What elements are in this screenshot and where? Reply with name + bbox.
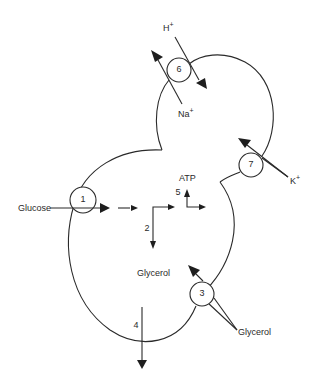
- arrowhead-icon: [151, 50, 163, 62]
- pathway-2-arrows: 2: [144, 204, 175, 249]
- carrier-7: 7: [238, 138, 288, 177]
- arrowhead-icon: [150, 241, 156, 249]
- pathway-5-label: 5: [175, 187, 180, 197]
- arrowhead-icon: [199, 204, 206, 210]
- mother-cell-membrane: [69, 150, 235, 342]
- glycerol-inside-label: Glycerol: [137, 268, 170, 278]
- pathway-2-label: 2: [144, 223, 149, 233]
- na-ion-label: Na+: [178, 107, 194, 119]
- arrowhead-icon: [100, 203, 110, 213]
- glucose-label: Glucose: [18, 203, 51, 213]
- carrier-1-label: 1: [80, 194, 85, 204]
- pathway-4-arrow: 4: [133, 307, 147, 369]
- cell-membrane: [69, 55, 274, 342]
- carrier-3-label: 3: [199, 288, 204, 298]
- arrowhead-icon: [196, 78, 207, 89]
- carrier-6-label: 6: [176, 64, 181, 74]
- arrowhead-icon: [168, 204, 175, 210]
- carrier-7-label: 7: [248, 159, 253, 169]
- arrowhead-icon: [137, 360, 147, 369]
- carrier-6: 6: [151, 37, 207, 104]
- glycerol-outside-label: Glycerol: [238, 327, 271, 337]
- atp-label: ATP: [179, 173, 196, 183]
- arrowhead-icon: [184, 189, 190, 197]
- carrier-3: 3: [188, 265, 237, 330]
- k-ion-label: K+: [290, 174, 300, 186]
- pathway-5-arrows: 5: [175, 187, 206, 210]
- h-ion-label: H+: [163, 21, 174, 33]
- yeast-transport-diagram: 1 Glucose 2 5 ATP Glycerol 4 3 Glyc: [0, 0, 319, 389]
- arrowhead-icon: [131, 205, 138, 211]
- arrowhead-icon: [188, 265, 200, 277]
- pathway-4-label: 4: [133, 320, 138, 330]
- carrier-1: 1: [70, 187, 96, 213]
